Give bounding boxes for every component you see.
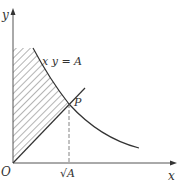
y-axis-arrow-icon <box>11 8 16 15</box>
diagram-canvas: y x O x y = A P √A <box>0 0 181 187</box>
x-axis-arrow-icon <box>170 161 177 166</box>
point-label: P <box>73 96 82 109</box>
x-axis-label: x <box>168 169 175 183</box>
sqrtA-tick-label: √A <box>60 167 75 180</box>
curve-label: x y = A <box>42 55 82 68</box>
y-axis-label: y <box>1 8 9 22</box>
x-axis <box>13 161 177 166</box>
origin-label: O <box>1 165 11 179</box>
